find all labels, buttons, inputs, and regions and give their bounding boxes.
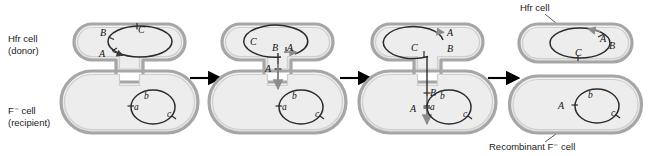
figure-canvas: Hfr cell (donor) F⁻ cell (recipient) Hfr… xyxy=(0,0,670,156)
diagram-svg: B C A a b c xyxy=(0,0,670,156)
panel-2-gene-C: C xyxy=(250,36,257,47)
panel-3-gene-B: B xyxy=(447,43,453,54)
panel-3-gene-A: A xyxy=(446,27,454,38)
panel-2-gene-a: a xyxy=(282,102,287,112)
panel-3-gene-b: b xyxy=(440,91,445,101)
panel-4-gene-A-recombinant: A xyxy=(557,100,565,111)
panel-4-gene-A: A xyxy=(599,33,607,44)
panel-2-gene-b: b xyxy=(292,91,297,101)
panel-1-gene-b: b xyxy=(144,91,149,101)
panel-1-gene-A: A xyxy=(98,48,106,59)
panel-1: B C A a b c xyxy=(61,23,198,133)
panel-3-gene-C: C xyxy=(411,42,418,53)
panel-1-gene-C: C xyxy=(138,24,145,35)
panel-3-gene-a: a xyxy=(430,102,435,112)
panel-4-gene-C: C xyxy=(575,47,582,58)
panel-2-gene-A: A xyxy=(286,42,294,53)
panel-2: C B A A a b c xyxy=(209,24,346,133)
panel-1-donor-cell xyxy=(74,24,185,71)
panel-2-bridge-gene-A: A xyxy=(264,63,272,74)
panel-4-gene-B: B xyxy=(609,40,615,51)
panel-1-recipient-cell xyxy=(61,71,198,133)
panel-4: A B C A b c xyxy=(510,14,642,142)
panel-2-gene-B: B xyxy=(272,42,278,53)
panel-1-gene-B: B xyxy=(100,27,106,38)
panel-3: A B C B A a b c xyxy=(359,24,496,133)
panel-4-gene-b: b xyxy=(588,90,593,100)
panel-1-gene-a: a xyxy=(134,102,139,112)
panel-3-bridge-gene-A: A xyxy=(409,103,417,114)
